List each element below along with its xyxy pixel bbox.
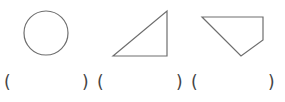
triangle-figure xyxy=(113,11,167,56)
answer-blank-3-close: ) xyxy=(268,72,275,92)
answer-blank-2-close: ) xyxy=(176,72,183,92)
answer-blank-3-open: ( xyxy=(191,72,198,92)
shapes-canvas xyxy=(0,0,285,102)
quadrilateral-figure xyxy=(202,17,263,56)
answer-blank-1-close: ) xyxy=(82,72,89,92)
circle-figure xyxy=(24,11,68,55)
answer-blank-1-open: ( xyxy=(4,72,11,92)
answer-blank-2-open: ( xyxy=(97,72,104,92)
